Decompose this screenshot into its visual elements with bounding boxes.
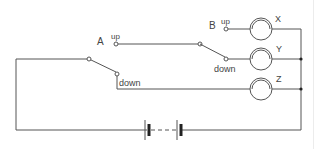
switch-a-blade xyxy=(89,59,116,72)
switch-a-up-label: up xyxy=(111,32,120,41)
battery xyxy=(145,120,181,140)
lamp-y-label: Y xyxy=(276,44,282,54)
junction-dot-y xyxy=(299,57,302,60)
switch-a-down-label: down xyxy=(119,78,141,88)
circuit-diagram: A up down B up down X Y Z xyxy=(0,0,319,149)
lamp-x-label: X xyxy=(275,14,281,24)
switch-b-down-label: down xyxy=(214,64,236,74)
switch-b-down-contact xyxy=(224,57,228,61)
switch-b-label: B xyxy=(209,20,216,31)
lamp-z-label: Z xyxy=(276,74,282,84)
switch-a-down-contact xyxy=(115,72,119,76)
switch-b-up-label: up xyxy=(221,17,230,26)
switch-a-pivot xyxy=(87,57,91,61)
switch-b-up-contact xyxy=(224,27,228,31)
switch-b-blade xyxy=(200,44,225,57)
junction-dot-z xyxy=(299,87,302,90)
wire-left-loop xyxy=(16,59,147,130)
switch-a-up-contact xyxy=(114,42,118,46)
switch-a-label: A xyxy=(97,36,104,47)
